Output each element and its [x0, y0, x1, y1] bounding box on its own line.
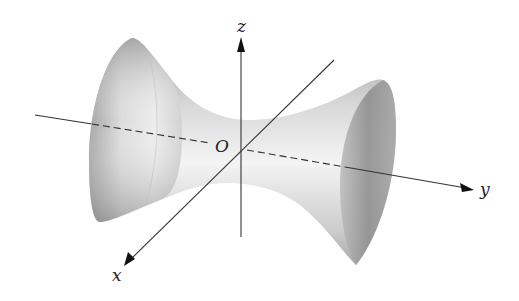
- y-axis-line-left: [35, 115, 92, 124]
- y-axis-label: y: [479, 179, 490, 199]
- z-axis-arrowhead-icon: [237, 37, 245, 52]
- x-axis-label: x: [112, 265, 122, 285]
- z-axis-label: z: [236, 16, 247, 36]
- hyperboloid-surface: [89, 38, 396, 265]
- hyperboloid-diagram: z y x O: [0, 0, 519, 301]
- x-axis-arrowhead-icon: [124, 252, 135, 266]
- origin-label: O: [215, 136, 229, 156]
- y-axis-arrowhead-icon: [460, 183, 474, 192]
